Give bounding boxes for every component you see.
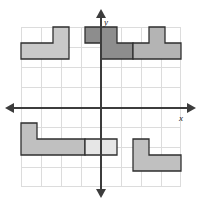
x-axis-label: x (179, 113, 183, 123)
coordinate-plane-figure: x y (0, 0, 201, 203)
y-axis-line (100, 14, 102, 194)
y-axis-label: y (104, 17, 108, 27)
arrow-left-icon (5, 103, 14, 113)
arrow-down-icon (96, 189, 106, 198)
arrow-right-icon (187, 103, 196, 113)
